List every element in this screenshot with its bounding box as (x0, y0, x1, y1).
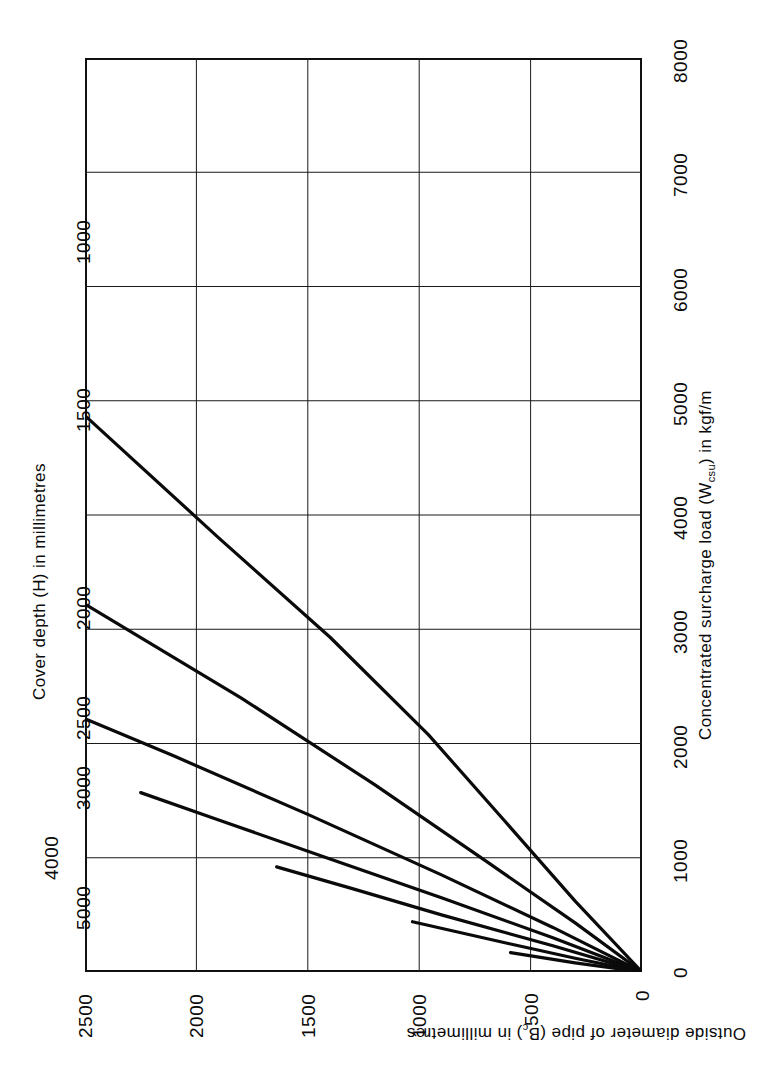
curve-label-2500: 2500 (73, 696, 95, 740)
figure-root: 010002000300040005000600070008000 050010… (0, 0, 770, 1076)
y-tick-2000: 2000 (186, 994, 208, 1038)
x-tick-4000: 4000 (670, 496, 692, 540)
x-axis-title: Concentrated surcharge load (Wcsu) in kg… (696, 390, 717, 740)
x-title-subscript: csu (705, 464, 717, 482)
curve-label-1000: 1000 (73, 219, 95, 263)
curve-label-4000: 4000 (41, 835, 63, 879)
curve-label-1500: 1500 (73, 387, 95, 431)
curve-label-5000: 5000 (73, 886, 95, 930)
curve-2500 (141, 793, 642, 972)
x-tick-1000: 1000 (670, 839, 692, 883)
y-tick-0: 0 (632, 990, 654, 1001)
y-tick-1500: 1500 (298, 994, 320, 1038)
x-tick-7000: 7000 (670, 153, 692, 197)
series-axis-title: Cover depth (H) in millimetres (30, 463, 50, 700)
y-axis-title: Outside diameter of pipe (Bc) in millime… (406, 1022, 746, 1043)
y-tick-2500: 2500 (75, 994, 97, 1038)
curve-1000 (85, 58, 642, 972)
y-title-subscript: c (522, 1022, 528, 1034)
x-tick-8000: 8000 (670, 39, 692, 83)
x-tick-3000: 3000 (670, 610, 692, 654)
x-tick-0: 0 (670, 967, 692, 978)
curve-label-2000: 2000 (73, 586, 95, 630)
curve-2000 (85, 653, 642, 972)
curve-group (85, 58, 642, 972)
curve-label-3000: 3000 (73, 766, 95, 810)
curve-1500 (85, 355, 642, 972)
x-tick-5000: 5000 (670, 382, 692, 426)
x-tick-2000: 2000 (670, 724, 692, 768)
x-tick-6000: 6000 (670, 267, 692, 311)
